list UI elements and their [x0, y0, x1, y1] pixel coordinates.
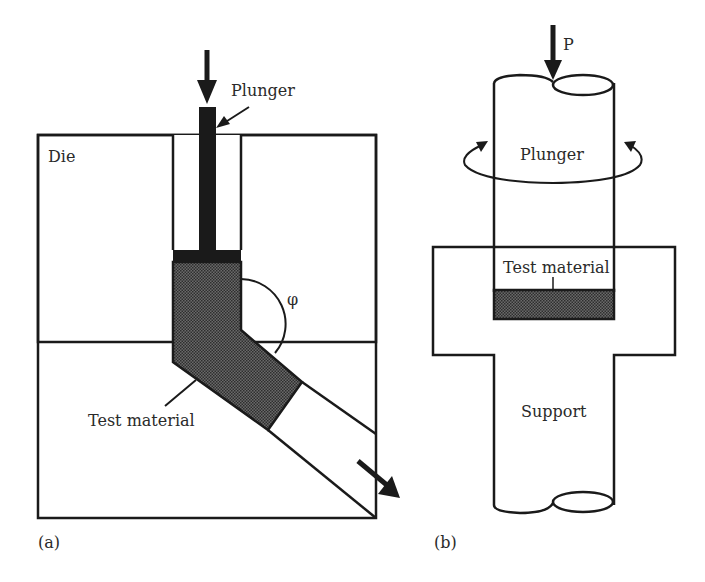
test-material-label-a: Test material — [88, 411, 195, 430]
test-material-label-b: Test material — [503, 258, 610, 277]
plunger-label-b: Plunger — [520, 145, 584, 164]
panel-b: P Plunger Test material Support (b) — [433, 25, 675, 552]
plunger-label-a: Plunger — [231, 81, 295, 100]
die-label: Die — [48, 147, 75, 166]
support-label: Support — [521, 402, 587, 421]
load-label: P — [563, 35, 574, 54]
plunger-rod — [199, 107, 216, 252]
panel-a: Die Plunger Test material φ (a) — [38, 50, 400, 552]
support-body — [433, 247, 675, 505]
exit-arrow — [358, 461, 388, 486]
test-material-leader-a — [165, 380, 196, 406]
test-material-region-a — [173, 262, 302, 430]
force-arrowhead-a — [197, 80, 217, 104]
caption-b: (b) — [434, 533, 457, 552]
diagram-canvas: Die Plunger Test material φ (a) P Plunge… — [0, 0, 705, 582]
plunger-leader-a — [224, 107, 249, 123]
angle-label: φ — [287, 290, 298, 309]
test-material-region-b — [494, 290, 614, 319]
caption-a: (a) — [38, 533, 60, 552]
plunger-top-ellipse — [553, 75, 613, 95]
